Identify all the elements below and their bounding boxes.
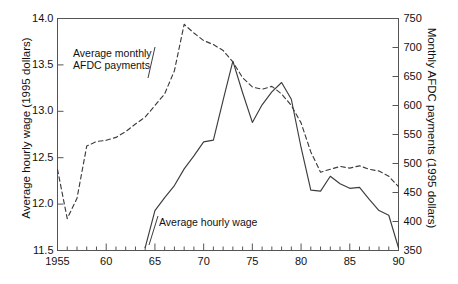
chart-figure: Average hourly wage (1995 dollars) Month… (0, 0, 458, 284)
right-tick-700: 700 (404, 41, 438, 53)
x-tick-1970: 70 (184, 255, 224, 267)
annotation-leader-0 (149, 216, 158, 245)
x-tick-1980: 80 (281, 255, 321, 267)
x-tick-1975: 75 (232, 255, 272, 267)
right-tick-750: 750 (404, 12, 438, 24)
x-tick-1965: 65 (135, 255, 175, 267)
left-tick-12-5: 12.5 (6, 151, 54, 163)
annotation-hourly-wage: Average hourly wage (159, 216, 257, 228)
x-tick-1985: 85 (330, 255, 370, 267)
annotation-leader-lines (148, 47, 158, 245)
left-tick-13-0: 13.0 (6, 104, 54, 116)
annotation-afdc-payments: Average monthly AFDC payments (73, 47, 152, 71)
x-tick-1990: 90 (379, 255, 419, 267)
right-tick-550: 550 (404, 128, 438, 140)
left-tick-13-5: 13.5 (6, 58, 54, 70)
right-tick-450: 450 (404, 186, 438, 198)
left-tick-14-0: 14.0 (6, 12, 54, 24)
right-tick-650: 650 (404, 70, 438, 82)
plot-area (0, 0, 458, 284)
left-tick-12-0: 12.0 (6, 197, 54, 209)
right-tick-600: 600 (404, 99, 438, 111)
x-tick-1955: 1955 (38, 255, 78, 267)
x-tick-1960: 60 (86, 255, 126, 267)
right-tick-400: 400 (404, 215, 438, 227)
right-tick-500: 500 (404, 157, 438, 169)
